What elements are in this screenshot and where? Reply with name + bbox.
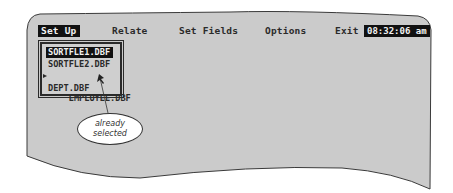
menu-exit[interactable]: Exit — [332, 25, 362, 37]
menu-options[interactable]: Options — [262, 25, 309, 37]
list-item-dept[interactable]: DEPT.DBF — [46, 83, 92, 94]
list-item-employee[interactable]: EMPLOYEE.DBF — [46, 71, 134, 82]
callout-annotation: already selected — [77, 113, 143, 145]
callout-line-2: selected — [78, 129, 142, 139]
selected-marker-icon — [43, 74, 47, 78]
file-list[interactable]: SORTFLE1.DBF SORTFLE2.DBF EMPLOYEE.DBF D… — [40, 42, 122, 96]
list-item-sortfle1[interactable]: SORTFLE1.DBF — [46, 47, 113, 58]
list-item-label: EMPLOYEE.DBF — [69, 93, 131, 103]
callout-line-1: already — [78, 119, 142, 129]
menu-set-fields[interactable]: Set Fields — [176, 25, 241, 37]
clock-display: 08:32:06 am — [364, 25, 430, 37]
menu-relate[interactable]: Relate — [109, 25, 151, 37]
list-item-sortfle2[interactable]: SORTFLE2.DBF — [46, 59, 113, 70]
menu-setup[interactable]: Set Up — [38, 25, 80, 37]
